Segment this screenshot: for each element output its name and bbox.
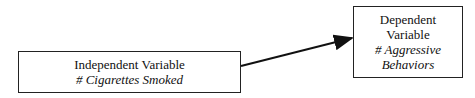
dependent-variable-box: Dependent Variable # Aggressive Behavior… [353, 6, 463, 78]
dependent-variable-title-2: Variable [354, 27, 462, 42]
independent-variable-measure: # Cigarettes Smoked [19, 72, 240, 87]
dependent-variable-measure-1: # Aggressive [354, 42, 462, 57]
dependent-variable-title-1: Dependent [354, 12, 462, 27]
independent-variable-title: Independent Variable [19, 57, 240, 72]
dependent-variable-measure-2: Behaviors [354, 57, 462, 72]
independent-variable-box: Independent Variable # Cigarettes Smoked [18, 51, 241, 93]
